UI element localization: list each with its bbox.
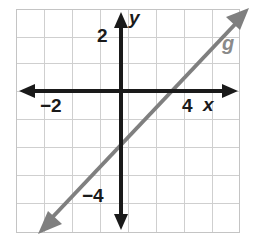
- line-label-g: g: [222, 33, 234, 53]
- line-g-arrow-upper-right: [226, 8, 249, 30]
- coordinate-plane: [0, 0, 258, 243]
- line-g-arrow-lower-left: [38, 211, 62, 234]
- grid-lines: [16, 9, 240, 233]
- x-axis-arrow-right: [222, 84, 238, 98]
- x-tick-label-neg-2: −2: [40, 96, 62, 115]
- y-axis: [114, 12, 128, 230]
- y-axis-arrow-down: [114, 214, 128, 230]
- y-tick-label-neg-4: −4: [82, 186, 104, 205]
- x-axis-arrow-left: [19, 84, 35, 98]
- y-tick-label-2: 2: [97, 26, 108, 45]
- x-axis-label: x: [203, 95, 214, 114]
- y-axis-arrow-up: [114, 12, 128, 28]
- x-tick-label-4: 4: [182, 96, 193, 115]
- graph-figure: y 2 −2 4 x −4 g: [0, 0, 258, 243]
- line-g: [38, 8, 249, 234]
- y-axis-label: y: [129, 8, 140, 27]
